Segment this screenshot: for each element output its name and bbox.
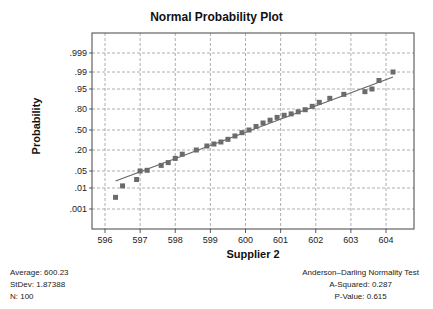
data-point xyxy=(391,70,396,75)
data-point xyxy=(341,92,346,97)
data-point xyxy=(282,113,287,118)
y-tick-label: .01 xyxy=(74,183,87,193)
data-point xyxy=(327,96,332,101)
a-squared-value: A-Squared: 0.287 xyxy=(302,279,419,291)
data-point xyxy=(180,152,185,157)
data-point xyxy=(173,156,178,161)
data-point xyxy=(369,87,374,92)
y-tick-label: .001 xyxy=(69,204,87,214)
data-point xyxy=(120,183,125,188)
y-tick-label: .05 xyxy=(74,166,87,176)
data-point xyxy=(225,137,230,142)
y-tick-label: .50 xyxy=(74,125,87,135)
x-tick-label: 596 xyxy=(97,235,112,245)
data-point xyxy=(159,163,164,168)
data-point xyxy=(303,107,308,112)
y-axis-label: Probability xyxy=(30,86,42,166)
data-point xyxy=(204,144,209,149)
y-tick-label: .99 xyxy=(74,67,87,77)
y-tick-label: .999 xyxy=(69,48,87,58)
data-point xyxy=(261,121,266,126)
data-point xyxy=(254,124,259,129)
data-point xyxy=(166,160,171,165)
x-tick-label: 600 xyxy=(238,235,253,245)
data-point xyxy=(138,169,143,174)
x-tick-label: 598 xyxy=(168,235,183,245)
test-name: Anderson–Darling Normality Test xyxy=(302,267,419,279)
x-tick-label: 602 xyxy=(308,235,323,245)
data-point xyxy=(268,118,273,123)
data-point xyxy=(289,111,294,116)
summary-stats: Average: 600.23 StDev: 1.87388 N: 100 xyxy=(10,267,69,303)
x-tick-label: 601 xyxy=(273,235,288,245)
average-value: Average: 600.23 xyxy=(10,267,69,279)
data-point xyxy=(362,89,367,94)
data-point xyxy=(113,195,118,200)
data-point xyxy=(134,177,139,182)
data-point xyxy=(145,168,150,173)
p-value: P-Value: 0.615 xyxy=(302,291,419,303)
data-point xyxy=(296,109,301,114)
normality-test: Anderson–Darling Normality Test A-Square… xyxy=(302,267,419,303)
data-point xyxy=(194,148,199,153)
data-point xyxy=(376,78,381,83)
y-tick-label: .80 xyxy=(74,104,87,114)
x-tick-label: 604 xyxy=(378,235,393,245)
data-point xyxy=(317,100,322,105)
x-axis-label: Supplier 2 xyxy=(91,248,415,260)
probability-plot: 596597598599600601602603604.999.99.95.80… xyxy=(0,0,433,309)
data-point xyxy=(232,134,237,139)
n-value: N: 100 xyxy=(10,291,69,303)
y-tick-label: .20 xyxy=(74,145,87,155)
data-point xyxy=(239,130,244,135)
data-point xyxy=(310,104,315,109)
y-tick-label: .95 xyxy=(74,84,87,94)
x-tick-label: 603 xyxy=(343,235,358,245)
stdev-value: StDev: 1.87388 xyxy=(10,279,69,291)
data-point xyxy=(211,142,216,147)
x-tick-label: 597 xyxy=(133,235,148,245)
data-point xyxy=(247,128,252,133)
x-tick-label: 599 xyxy=(203,235,218,245)
data-point xyxy=(218,140,223,145)
data-point xyxy=(275,115,280,120)
